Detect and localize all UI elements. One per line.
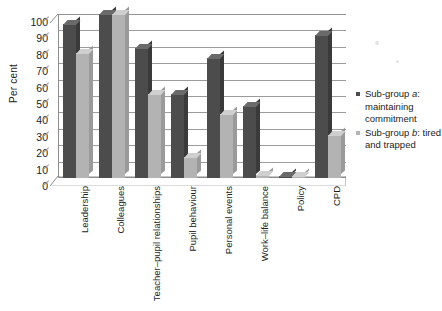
bar-group (58, 14, 94, 178)
bar[interactable] (220, 114, 233, 178)
bar-face (171, 94, 184, 178)
legend-swatch-icon-a (356, 92, 360, 96)
bar-face (315, 35, 328, 178)
x-axis-category-label: Leadership (80, 186, 90, 233)
bar-group (310, 14, 346, 178)
bar-side (256, 98, 260, 174)
bar-group (166, 14, 202, 178)
x-axis-category-label: Pupil behaviour (188, 186, 198, 252)
bar[interactable] (315, 35, 328, 178)
bar[interactable] (63, 24, 76, 178)
bar-face (328, 135, 341, 178)
y-axis-tick-labels: 1009080706050403020100 (24, 0, 48, 311)
bar-cap (256, 171, 274, 176)
x-axis-category-label: Policy (296, 186, 306, 211)
x-axis-category-label: Teacher–pupil relationships (152, 186, 162, 301)
legend-swatch-icon-b (356, 131, 360, 135)
legend-label-b: Sub-group b: tired and trapped (365, 127, 442, 152)
scan-speckle (375, 41, 379, 45)
chart-legend: Sub-group a: maintaining commitment Sub-… (356, 88, 442, 153)
legend-label-a: Sub-group a: maintaining commitment (365, 88, 442, 126)
bar-face (243, 106, 256, 178)
bar-face (63, 24, 76, 178)
bar-face (220, 114, 233, 178)
bar-group (130, 14, 166, 178)
bar[interactable] (328, 135, 341, 178)
bar-side (89, 46, 93, 174)
bar[interactable] (184, 157, 197, 178)
bar-face (135, 48, 148, 178)
x-axis-category-label: Personal events (224, 186, 234, 254)
bar-face (99, 14, 112, 178)
bar-side (125, 6, 129, 174)
bar[interactable] (99, 14, 112, 178)
x-axis-category-label: Work–life balance (260, 186, 270, 261)
y-axis-title: Per cent (8, 44, 19, 124)
bar[interactable] (207, 58, 220, 178)
x-axis-category-label: Colleagues (116, 186, 126, 234)
bar-group (238, 14, 274, 178)
bar-group (202, 14, 238, 178)
bar-group (274, 14, 310, 178)
bar-face (76, 53, 89, 178)
bar[interactable] (256, 175, 269, 178)
legend-entry-series-a: Sub-group a: maintaining commitment (356, 88, 442, 126)
bar[interactable] (292, 176, 305, 178)
x-axis-category-labels: LeadershipColleaguesTeacher–pupil relati… (58, 186, 354, 296)
bar[interactable] (112, 14, 125, 178)
bar[interactable] (76, 53, 89, 178)
bar[interactable] (243, 106, 256, 178)
bar-group (94, 14, 130, 178)
bar-face (112, 14, 125, 178)
bar-face (148, 94, 161, 178)
bar-face (207, 58, 220, 178)
scan-speckle (396, 60, 399, 63)
bar[interactable] (279, 176, 292, 178)
bar-cap (292, 172, 310, 177)
bar[interactable] (148, 94, 161, 178)
bar-side (233, 106, 237, 174)
legend-entry-series-b: Sub-group b: tired and trapped (356, 127, 442, 152)
bar[interactable] (135, 48, 148, 178)
bar[interactable] (171, 94, 184, 178)
plot-area (50, 14, 346, 186)
x-axis-category-label: CPD (332, 186, 342, 206)
bar-side (161, 87, 165, 174)
bar-face (184, 157, 197, 178)
bars-layer (58, 14, 346, 178)
